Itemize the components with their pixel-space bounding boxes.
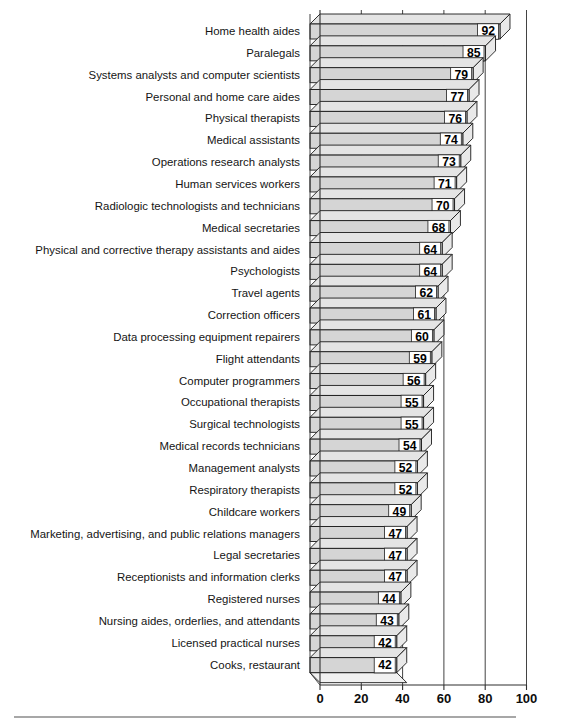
x-tick-label-20: 20 [354,691,368,706]
bar-top-face-22 [310,495,421,505]
x-tick-label-0: 0 [316,691,323,706]
bar-top-face-23 [310,517,417,527]
bar-top-face-17 [310,385,434,395]
category-label-16: Computer programmers [179,375,300,387]
category-label-23: Marketing, advertising, and public relat… [30,528,300,540]
category-label-13: Correction officers [208,309,301,321]
bar-top-face-15 [310,342,442,352]
bar-top-face-13 [310,298,446,308]
category-label-18: Surgical technologists [189,418,300,430]
category-label-22: Childcare workers [209,506,300,518]
x-tick-label-80: 80 [478,691,492,706]
category-label-11: Psychologists [230,265,300,277]
bar-top-face-18 [310,407,434,417]
category-label-6: Operations research analysts [152,156,300,168]
category-label-20: Management analysts [189,462,301,474]
x-tick-label-60: 60 [437,691,451,706]
bar-top-face-9 [310,211,460,221]
bar-top-face-6 [310,145,471,155]
category-label-3: Personal and home care aides [145,91,300,103]
category-label-7: Human services workers [175,178,300,190]
value-label-29: 42 [378,658,392,672]
chart-floor [310,673,407,683]
category-label-5: Medical assistants [207,134,300,146]
bar-top-face-0 [310,14,510,24]
bar-top-face-2 [310,58,483,68]
horizontal-bar-chart: Home health aides92Paralegals85Systems a… [0,0,563,727]
bar-top-face-1 [310,36,496,46]
bar-top-face-4 [310,101,477,111]
bar-top-face-7 [310,167,467,177]
category-label-26: Registered nurses [208,593,301,605]
bar-top-face-5 [310,123,473,133]
bar-top-face-29 [310,648,407,658]
category-label-28: Licensed practical nurses [171,637,300,649]
bar-top-face-8 [310,189,465,199]
bar-top-face-20 [310,451,427,461]
bar-top-face-11 [310,254,452,264]
bar-top-face-19 [310,429,432,439]
bar-top-face-28 [310,626,407,636]
category-label-17: Occupational therapists [181,396,300,408]
bar-top-face-16 [310,364,436,374]
bar-top-face-3 [310,80,479,90]
category-label-10: Physical and corrective therapy assistan… [35,244,300,256]
category-label-24: Legal secretaries [213,549,300,561]
category-label-0: Home health aides [205,25,300,37]
bar-top-face-24 [310,538,417,548]
category-label-9: Medical secretaries [202,222,300,234]
x-tick-label-40: 40 [395,691,409,706]
category-label-8: Radiologic technologists and technicians [95,200,300,212]
category-label-29: Cooks, restaurant [210,659,301,671]
category-label-25: Receptionists and information clerks [117,571,300,583]
category-label-19: Medical records technicians [159,440,300,452]
category-label-12: Travel agents [231,287,300,299]
category-label-27: Nursing aides, orderlies, and attendants [99,615,301,627]
bar-top-face-21 [310,473,427,483]
category-label-4: Physical therapists [205,112,300,124]
bar-top-face-10 [310,233,452,243]
category-label-1: Paralegals [246,47,300,59]
category-label-14: Data processing equipment repairers [113,331,300,343]
x-tick-label-100: 100 [516,691,538,706]
category-label-21: Respiratory therapists [189,484,300,496]
chart-container: Home health aides92Paralegals85Systems a… [0,0,563,727]
category-label-15: Flight attendants [216,353,301,365]
bar-top-face-12 [310,276,448,286]
bar-top-face-14 [310,320,444,330]
bar-top-face-27 [310,604,409,614]
bar-top-face-25 [310,560,417,570]
category-label-2: Systems analysts and computer scientists [89,69,301,81]
bar-top-face-26 [310,582,411,592]
